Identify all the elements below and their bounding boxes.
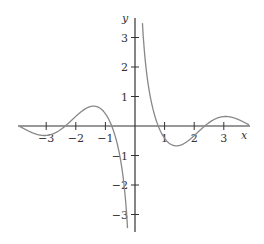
x-tick-label: 3 (220, 132, 227, 145)
x-tick-label: −2 (68, 132, 84, 145)
y-tick-label: 2 (121, 61, 128, 74)
y-tick-label: 3 (121, 32, 128, 45)
y-axis-label: y (121, 12, 129, 25)
y-tick-label: −2 (112, 179, 128, 192)
x-tick-label: −1 (97, 132, 113, 145)
y-tick-label: −3 (112, 209, 128, 222)
function-plot: −3−2−1123−3−2−1123 x y (0, 0, 264, 244)
y-tick-label: 1 (121, 91, 128, 104)
axes (18, 18, 250, 232)
curve-right-branch (142, 23, 249, 146)
x-axis-label: x (241, 129, 248, 142)
